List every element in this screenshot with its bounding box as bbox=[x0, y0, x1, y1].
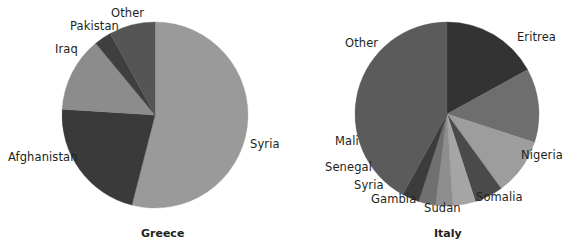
italy-chart-title: Italy bbox=[434, 228, 462, 239]
italy-label-eritrea: Eritrea bbox=[517, 32, 556, 44]
italy-label-somalia: Somalia bbox=[476, 192, 523, 204]
italy-label-nigeria: Nigeria bbox=[521, 150, 563, 162]
greece-label-syria: Syria bbox=[250, 139, 280, 151]
italy-label-syria: Syria bbox=[354, 180, 384, 192]
greece-label-afghanistan: Afghanistan bbox=[8, 152, 78, 164]
greece-label-iraq: Iraq bbox=[55, 44, 78, 56]
greece-label-pakistan: Pakistan bbox=[70, 21, 119, 33]
italy-label-sudan: Sudan bbox=[424, 203, 461, 215]
greece-pie-svg bbox=[0, 0, 290, 251]
greece-pie-panel: Other Pakistan Iraq Afghanistan Syria Gr… bbox=[0, 0, 290, 251]
pie-chart-figure: Other Pakistan Iraq Afghanistan Syria Gr… bbox=[0, 0, 580, 251]
greece-chart-title: Greece bbox=[141, 228, 184, 239]
italy-label-other: Other bbox=[345, 38, 378, 50]
italy-label-mali: Mali bbox=[335, 136, 359, 148]
italy-label-senegal: Senegal bbox=[325, 162, 372, 174]
greece-label-other: Other bbox=[111, 8, 144, 20]
italy-label-gambia: Gambia bbox=[371, 194, 416, 206]
